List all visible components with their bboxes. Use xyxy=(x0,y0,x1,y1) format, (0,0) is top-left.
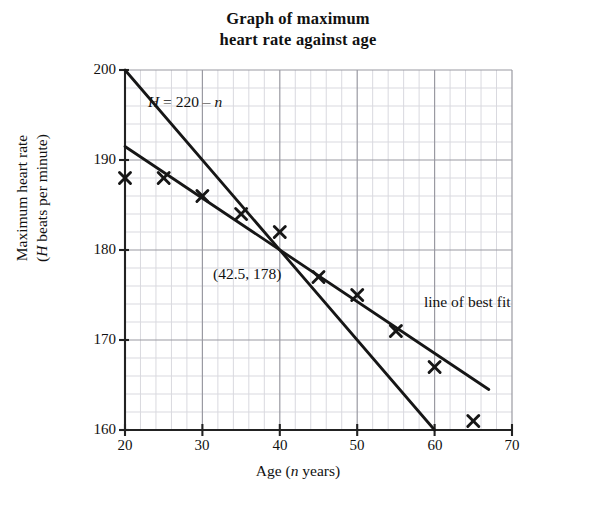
chart-title: Graph of maximum heart rate against age xyxy=(0,8,596,50)
y-tick-label-200: 200 xyxy=(76,61,116,78)
x-tick-label-70: 70 xyxy=(492,437,532,454)
y-tick-label-180: 180 xyxy=(76,241,116,258)
line-of-best-fit-annotation: line of best fit xyxy=(424,293,511,311)
x-tick-label-40: 40 xyxy=(260,437,300,454)
chart-figure: Graph of maximum heart rate against age … xyxy=(0,0,596,513)
equation-body: = 220 – xyxy=(159,93,214,110)
plot-area xyxy=(125,70,512,430)
equation-variable-n: n xyxy=(214,93,222,110)
x-axis-title-units: years) xyxy=(298,462,340,479)
axis-ticks xyxy=(119,70,512,436)
y-tick-label-170: 170 xyxy=(76,331,116,348)
y-axis-title-line-1: Maximum heart rate xyxy=(12,48,32,348)
chart-title-line-2: heart rate against age xyxy=(0,29,596,50)
x-axis-title-prefix: Age ( xyxy=(256,462,291,479)
x-axis-title: Age (n years) xyxy=(0,462,596,480)
data-point-marker xyxy=(468,416,479,427)
y-axis-title: Maximum heart rate (H beats per minute) xyxy=(12,48,52,348)
y-axis-variable-h: H xyxy=(33,246,50,257)
chart-title-line-1: Graph of maximum xyxy=(0,8,596,29)
y-tick-label-190: 190 xyxy=(76,151,116,168)
equation-variable-h: H xyxy=(148,93,159,110)
y-axis-title-units: beats per minute) xyxy=(33,134,50,245)
equation-annotation: H = 220 – n xyxy=(148,93,222,111)
x-tick-label-20: 20 xyxy=(105,437,145,454)
x-tick-label-50: 50 xyxy=(337,437,377,454)
intersection-point-annotation: (42.5, 178) xyxy=(213,265,281,283)
x-tick-label-60: 60 xyxy=(415,437,455,454)
y-axis-title-line-2: (H beats per minute) xyxy=(32,48,52,348)
y-tick-label-160: 160 xyxy=(76,421,116,438)
y-axis-title-paren-open: ( xyxy=(33,257,50,262)
x-tick-label-30: 30 xyxy=(182,437,222,454)
plot-svg xyxy=(125,70,512,430)
